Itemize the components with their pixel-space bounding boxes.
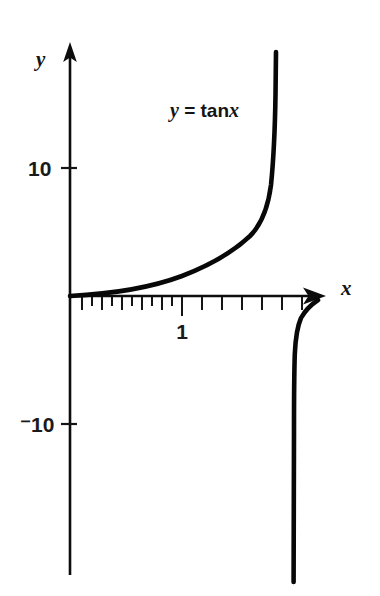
equation-tan: tan xyxy=(201,100,230,121)
equation-equals: = xyxy=(179,100,201,121)
equation-x: x xyxy=(228,99,239,121)
y-tick-label-minus-10: ⁻10 xyxy=(20,413,54,436)
equation-annotation: y = tanx xyxy=(168,99,239,122)
y-tick-label-10: 10 xyxy=(28,157,51,180)
plot-background xyxy=(0,0,380,596)
tan-function-plot: y x 10 ⁻10 1 y = tanx xyxy=(0,0,380,596)
x-axis-label: x xyxy=(340,276,352,300)
equation-y: y xyxy=(168,99,179,122)
figure-container: y x 10 ⁻10 1 y = tanx xyxy=(0,0,380,596)
x-tick-label-1: 1 xyxy=(176,320,188,343)
